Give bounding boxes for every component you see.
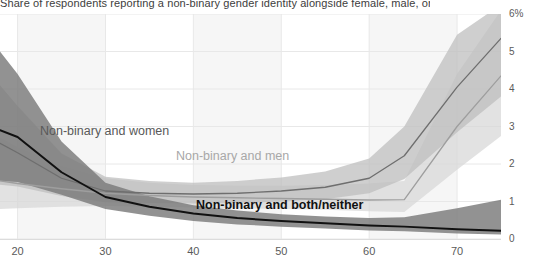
y-axis-tick-label: 4 [509, 84, 515, 94]
x-axis-tick-label: 60 [363, 245, 375, 257]
series-label-men: Non-binary and men [176, 150, 289, 163]
series-label-women: Non-binary and women [40, 125, 169, 138]
y-axis: 6%543210 [501, 14, 536, 239]
y-axis-tick-label: 3 [509, 122, 515, 132]
y-axis-tick-label: 2 [509, 159, 515, 169]
chart-root: Share of respondents reporting a non-bin… [0, 0, 536, 268]
y-axis-tick-label: 1 [509, 197, 515, 207]
page-title: Share of respondents reporting a non-bin… [0, 0, 430, 12]
x-axis-tick-label: 50 [275, 245, 287, 257]
y-axis-tick-label: 0 [509, 234, 515, 244]
x-axis-tick-label: 30 [99, 245, 111, 257]
x-axis-tick-label: 40 [187, 245, 199, 257]
y-axis-tick-label: 6% [509, 9, 523, 19]
x-axis-tick-label: 70 [451, 245, 463, 257]
x-axis-tick-label: 20 [11, 245, 23, 257]
series-label-both-neither: Non-binary and both/neither [196, 199, 363, 212]
x-axis-baseline [0, 239, 501, 240]
x-axis: 203040506070 [0, 241, 501, 263]
y-axis-tick-label: 5 [509, 47, 515, 57]
